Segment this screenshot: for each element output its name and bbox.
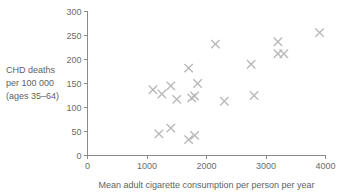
data-point: [155, 130, 163, 138]
data-point: [184, 64, 192, 72]
y-tick-label: 300: [66, 7, 81, 17]
axis-ticks: [84, 12, 326, 160]
x-axis-title: Mean adult cigarette consumption per per…: [98, 180, 314, 190]
x-tick-label: 3000: [256, 161, 276, 171]
axis-tick-labels: 05010015020025030001000200030004000: [66, 7, 335, 171]
x-tick-label: 4000: [315, 161, 335, 171]
data-point: [190, 131, 198, 139]
data-point: [280, 50, 288, 58]
y-axis-title-line-0: CHD deaths: [6, 65, 56, 75]
data-point: [211, 40, 219, 48]
y-tick-label: 100: [66, 103, 81, 113]
y-axis-title-line-1: per 100 000: [6, 78, 54, 88]
data-point: [247, 60, 255, 68]
y-tick-label: 250: [66, 31, 81, 41]
data-markers: [149, 28, 324, 143]
chart-figure: 05010015020025030001000200030004000 Mean…: [0, 0, 341, 193]
x-tick-label: 0: [85, 161, 90, 171]
axes: [88, 12, 326, 156]
y-tick-label: 0: [76, 151, 81, 161]
x-tick-label: 1000: [137, 161, 157, 171]
data-point: [193, 79, 201, 87]
axis-titles: Mean adult cigarette consumption per per…: [6, 65, 315, 190]
data-point: [167, 82, 175, 90]
x-tick-label: 2000: [196, 161, 216, 171]
scatter-plot: 05010015020025030001000200030004000 Mean…: [0, 0, 341, 193]
data-point: [173, 95, 181, 103]
data-point: [315, 28, 323, 36]
data-point: [190, 92, 198, 100]
data-point: [250, 91, 258, 99]
y-axis-title-line-2: (ages 35–64): [6, 91, 59, 101]
y-tick-label: 50: [71, 127, 81, 137]
y-tick-label: 150: [66, 79, 81, 89]
data-point: [149, 86, 157, 94]
data-point: [274, 38, 282, 46]
data-point: [158, 90, 166, 98]
data-point: [167, 124, 175, 132]
y-tick-label: 200: [66, 55, 81, 65]
data-point: [220, 97, 228, 105]
data-point: [184, 135, 192, 143]
